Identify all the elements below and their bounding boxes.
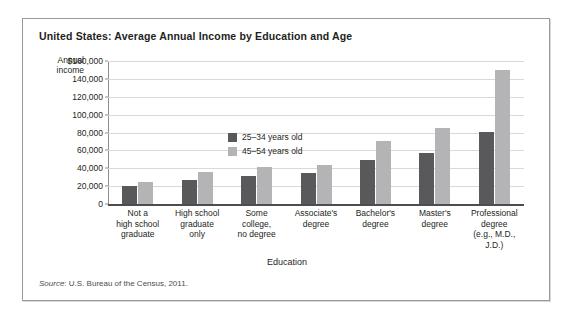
source-word: Source bbox=[39, 279, 64, 288]
y-axis-tick-label: 80,000 bbox=[77, 128, 103, 138]
bar bbox=[241, 176, 256, 204]
y-axis-tick-mark bbox=[105, 61, 108, 62]
bar-group bbox=[122, 61, 153, 204]
chart-panel: United States: Average Annual Income by … bbox=[22, 18, 550, 301]
bar bbox=[198, 172, 213, 204]
x-axis-category-label: Master'sdegree bbox=[405, 208, 464, 229]
x-axis-line bbox=[108, 204, 524, 206]
bar bbox=[479, 132, 494, 204]
y-axis-tick-mark bbox=[105, 150, 108, 151]
x-axis-category-label: Somecollege,no degree bbox=[227, 208, 286, 240]
bar bbox=[257, 167, 272, 204]
category-label-line: graduate bbox=[108, 229, 167, 240]
bar bbox=[495, 70, 510, 204]
category-label-line: high school bbox=[108, 219, 167, 230]
category-label-line: degree bbox=[405, 219, 464, 230]
plot-area: $160,000140,000120,000100,00080,00060,00… bbox=[108, 61, 524, 204]
category-label-line: Master's bbox=[405, 208, 464, 219]
legend-item-25-34: 25–34 years old bbox=[228, 131, 303, 143]
bar bbox=[301, 173, 316, 204]
category-label-line: Professional bbox=[465, 208, 524, 219]
bar bbox=[376, 141, 391, 204]
category-label-line: Not a bbox=[108, 208, 167, 219]
legend: 25–34 years old 45–54 years old bbox=[228, 131, 303, 159]
x-axis-category-label: Not ahigh schoolgraduate bbox=[108, 208, 167, 240]
bar bbox=[182, 180, 197, 204]
bar-group bbox=[182, 61, 213, 204]
y-axis-tick-mark bbox=[105, 96, 108, 97]
category-label-line: High school bbox=[167, 208, 226, 219]
y-axis-tick-label: $160,000 bbox=[68, 56, 103, 66]
bar-group bbox=[419, 61, 450, 204]
category-label-line: Some bbox=[227, 208, 286, 219]
legend-swatch-icon bbox=[228, 147, 237, 156]
x-axis-category-label: High schoolgraduateonly bbox=[167, 208, 226, 240]
x-axis-category-label: Bachelor'sdegree bbox=[346, 208, 405, 229]
category-label-line: only bbox=[167, 229, 226, 240]
bar-group bbox=[360, 61, 391, 204]
y-axis-tick-label: 0 bbox=[98, 199, 103, 209]
source-note: Source: U.S. Bureau of the Census, 2011. bbox=[39, 279, 188, 288]
y-axis-tick-label: 140,000 bbox=[72, 74, 103, 84]
bar-group bbox=[301, 61, 332, 204]
x-axis-category-label: Associate'sdegree bbox=[286, 208, 345, 229]
y-axis-tick-mark bbox=[105, 114, 108, 115]
category-label-line: Bachelor's bbox=[346, 208, 405, 219]
bar bbox=[122, 186, 137, 204]
y-axis-tick-label: 120,000 bbox=[72, 92, 103, 102]
bar-group bbox=[479, 61, 510, 204]
bar bbox=[419, 153, 434, 204]
chart-title: United States: Average Annual Income by … bbox=[39, 30, 352, 42]
y-axis-tick-mark bbox=[105, 204, 108, 205]
x-axis-category-label: Professionaldegree(e.g., M.D., J.D.) bbox=[465, 208, 524, 250]
category-label-line: degree bbox=[286, 219, 345, 230]
legend-item-45-54: 45–54 years old bbox=[228, 145, 303, 157]
bar bbox=[138, 182, 153, 204]
category-label-line: (e.g., M.D., J.D.) bbox=[465, 229, 524, 250]
category-label-line: degree bbox=[465, 219, 524, 230]
y-axis-tick-mark bbox=[105, 132, 108, 133]
category-label-line: Associate's bbox=[286, 208, 345, 219]
y-axis-tick-mark bbox=[105, 186, 108, 187]
legend-swatch-icon bbox=[228, 133, 237, 142]
category-label-line: college, bbox=[227, 219, 286, 230]
y-axis-tick-label: 40,000 bbox=[77, 163, 103, 173]
bar bbox=[360, 160, 375, 204]
legend-label: 25–34 years old bbox=[242, 132, 303, 142]
category-label-line: degree bbox=[346, 219, 405, 230]
y-axis-tick-mark bbox=[105, 78, 108, 79]
y-axis-tick-label: 100,000 bbox=[72, 110, 103, 120]
x-axis-label: Education bbox=[23, 257, 551, 267]
y-axis-tick-label: 60,000 bbox=[77, 145, 103, 155]
source-text: U.S. Bureau of the Census, 2011. bbox=[69, 279, 188, 288]
category-label-line: no degree bbox=[227, 229, 286, 240]
category-label-line: graduate bbox=[167, 219, 226, 230]
bar bbox=[435, 128, 450, 204]
y-axis-tick-mark bbox=[105, 168, 108, 169]
y-axis-tick-label: 20,000 bbox=[77, 181, 103, 191]
legend-label: 45–54 years old bbox=[242, 146, 303, 156]
bar bbox=[317, 165, 332, 204]
